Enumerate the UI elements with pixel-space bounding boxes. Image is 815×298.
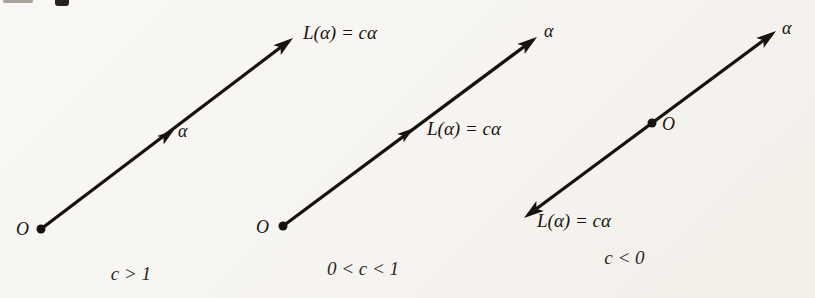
origin-label: O [662, 115, 675, 135]
image-vector-label: L(α) = cα [303, 23, 377, 44]
case-caption: 0 < c < 1 [323, 258, 403, 280]
diagram-c-less-than-0 [520, 26, 779, 223]
origin-label: O [256, 218, 269, 238]
origin-dot [648, 119, 657, 128]
origin-label: O [16, 220, 29, 240]
vector-diagrams-canvas [0, 0, 815, 298]
alpha-vector-label: α [782, 19, 791, 39]
case-caption: c > 1 [96, 263, 166, 285]
alpha-vector-label: α [544, 22, 553, 42]
image-vector-label: L(α) = cα [427, 119, 501, 140]
alpha-vector-label: α [178, 122, 187, 142]
image-vector-label: L(α) = cα [537, 211, 611, 232]
case-caption: c < 0 [597, 247, 652, 269]
diagram-c-greater-than-1 [37, 33, 297, 233]
scalar-multiplication-figure: O α L(α) = cα c > 1 O L(α) = cα α 0 < c … [0, 0, 815, 298]
diagram-c-between-0-and-1 [279, 32, 541, 230]
